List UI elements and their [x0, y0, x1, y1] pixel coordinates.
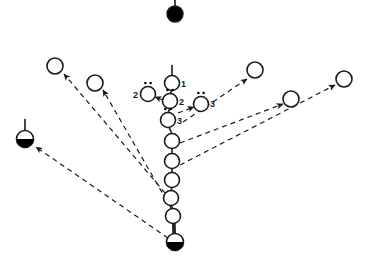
- node-outer-right-near: [247, 62, 263, 78]
- node-arrow-diagram: 12323: [0, 0, 366, 266]
- node-bottom-half: [167, 224, 184, 251]
- node-outer-left-near: [87, 75, 103, 91]
- node-dot-1: [164, 108, 167, 111]
- node-circle-half-fill: [17, 139, 34, 147]
- node-dot-1: [197, 92, 200, 95]
- node-circle-open: [336, 71, 352, 87]
- node-circle-open: [163, 94, 178, 109]
- node-circle-solid: [167, 6, 183, 22]
- node-label-chain-1: 1: [181, 79, 186, 89]
- node-branch-right-3: 3: [194, 92, 216, 112]
- node-chain-3: 3: [161, 108, 183, 128]
- node-label-branch-left-2: 2: [133, 90, 138, 100]
- node-circle-open: [161, 113, 176, 128]
- node-label-chain-3: 3: [177, 116, 182, 126]
- node-dot-1: [144, 82, 147, 85]
- node-chain-4: [165, 134, 180, 149]
- node-circle-open: [47, 58, 63, 74]
- node-circle-open: [87, 75, 103, 91]
- node-dot-1: [166, 89, 169, 92]
- node-circle-open: [165, 173, 180, 188]
- node-chain-7: [164, 191, 179, 206]
- node-outer-right-mid: [283, 91, 299, 107]
- node-circle-open: [247, 62, 263, 78]
- node-circle-open: [165, 154, 180, 169]
- node-dot-2: [171, 89, 174, 92]
- node-chain-1: 1: [165, 66, 187, 91]
- node-outer-right-far: [336, 71, 352, 87]
- node-dot-2: [149, 82, 152, 85]
- arrow-to-outer-left-near: [103, 90, 171, 208]
- node-circle-open: [141, 87, 156, 102]
- arrow-to-outer-left-half: [36, 147, 168, 238]
- node-label-chain-2: 2: [179, 97, 184, 107]
- node-dot-2: [202, 92, 205, 95]
- node-label-branch-right-3: 3: [210, 99, 215, 109]
- node-outer-left-half: [17, 120, 34, 148]
- node-outer-left-far: [47, 58, 63, 74]
- node-dot-2: [169, 108, 172, 111]
- node-chain-2: 2: [163, 89, 185, 109]
- node-chain-5: [165, 154, 180, 169]
- arrow-to-branch-left-2: [155, 97, 163, 100]
- node-circle-open: [283, 91, 299, 107]
- diagram-canvas: 12323: [0, 0, 366, 266]
- node-circle-open: [194, 97, 209, 112]
- node-circle-open: [165, 76, 180, 91]
- node-circle-open: [164, 191, 179, 206]
- node-circle-open: [166, 209, 181, 224]
- node-circle-open: [165, 134, 180, 149]
- arrow-to-branch-right-3: [178, 107, 194, 113]
- node-chain-6: [165, 173, 180, 188]
- node-top-solid: [167, 0, 183, 22]
- node-chain-8: [166, 209, 181, 234]
- nodes-group: 12323: [17, 0, 353, 251]
- node-circle-half-fill: [167, 242, 184, 251]
- node-branch-left-2: 2: [133, 82, 156, 102]
